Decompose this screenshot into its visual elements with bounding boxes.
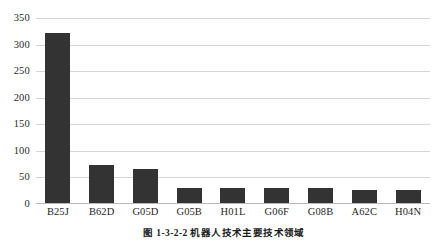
figure-container: 050100150200250300350 B25JB62DG05DG05BH0… [0, 0, 448, 242]
y-axis-tick-label: 300 [14, 39, 30, 50]
x-axis-tick-label: G05B [167, 206, 211, 218]
bar-slot [386, 18, 430, 203]
bar-g06f[interactable] [264, 188, 289, 203]
plot-area [36, 18, 430, 204]
x-axis-tick-label: B25J [36, 206, 80, 218]
y-axis-tick-label: 100 [14, 146, 30, 157]
x-axis: B25JB62DG05DG05BH01LG06FG08BA62CH04N [36, 206, 430, 220]
x-axis-tick-label: H01L [211, 206, 255, 218]
x-axis-line [36, 203, 430, 204]
bar-slot [124, 18, 168, 203]
bar-slot [211, 18, 255, 203]
bar-slot [167, 18, 211, 203]
bar-slot [342, 18, 386, 203]
y-axis: 050100150200250300350 [0, 0, 34, 222]
x-axis-tick-label: B62D [80, 206, 124, 218]
figure-caption: 图 1-3-2-2 机器人技术主要技术领域 [0, 228, 448, 239]
y-axis-tick-label: 150 [14, 119, 30, 130]
bar-series [36, 18, 430, 203]
bar-slot [299, 18, 343, 203]
bar-slot [80, 18, 124, 203]
bar-h04n[interactable] [396, 190, 421, 203]
y-axis-tick-label: 50 [19, 172, 30, 183]
x-axis-tick-label: G06F [255, 206, 299, 218]
x-axis-tick-label: G08B [299, 206, 343, 218]
bar-h01l[interactable] [220, 188, 245, 203]
bar-g08b[interactable] [308, 188, 333, 203]
bar-g05d[interactable] [133, 169, 158, 203]
bar-chart: 050100150200250300350 B25JB62DG05DG05BH0… [0, 0, 448, 222]
x-axis-tick-label: G05D [124, 206, 168, 218]
x-axis-tick-label: H04N [386, 206, 430, 218]
bar-g05b[interactable] [177, 188, 202, 203]
bar-b62d[interactable] [89, 165, 114, 203]
y-axis-tick-label: 200 [14, 92, 30, 103]
y-axis-tick-label: 0 [25, 199, 30, 210]
y-axis-tick-label: 350 [14, 13, 30, 24]
y-axis-tick-label: 250 [14, 66, 30, 77]
bar-b25j[interactable] [45, 33, 70, 203]
bar-slot [36, 18, 80, 203]
x-axis-tick-label: A62C [342, 206, 386, 218]
bar-a62c[interactable] [352, 190, 377, 203]
bar-slot [255, 18, 299, 203]
